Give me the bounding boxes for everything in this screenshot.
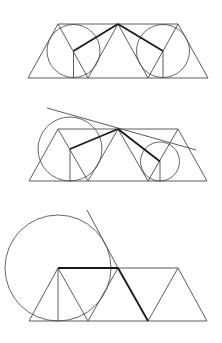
highlighted-segment <box>74 24 119 51</box>
highlighted-segment <box>118 268 148 321</box>
geometry-diagram <box>0 0 222 343</box>
triangle-edge <box>28 24 58 78</box>
triangle-edge <box>178 268 207 321</box>
triangle-edge <box>178 24 208 78</box>
triangle-edge <box>58 129 88 181</box>
highlighted-segment <box>70 129 118 149</box>
figure-2 <box>29 108 207 181</box>
triangle-edge <box>58 268 88 321</box>
figure-3 <box>5 210 207 321</box>
triangle-edge <box>29 129 58 181</box>
triangle-edge <box>148 268 178 321</box>
triangle-edge <box>29 268 58 321</box>
figure-1 <box>28 24 208 78</box>
highlighted-segment <box>118 24 163 51</box>
triangle-edge <box>88 268 118 321</box>
triangle-edge <box>178 129 207 181</box>
tangent-line <box>87 210 118 268</box>
triangle-edge <box>58 24 88 78</box>
triangle-edge <box>88 129 118 181</box>
triangle-edge <box>118 129 148 181</box>
